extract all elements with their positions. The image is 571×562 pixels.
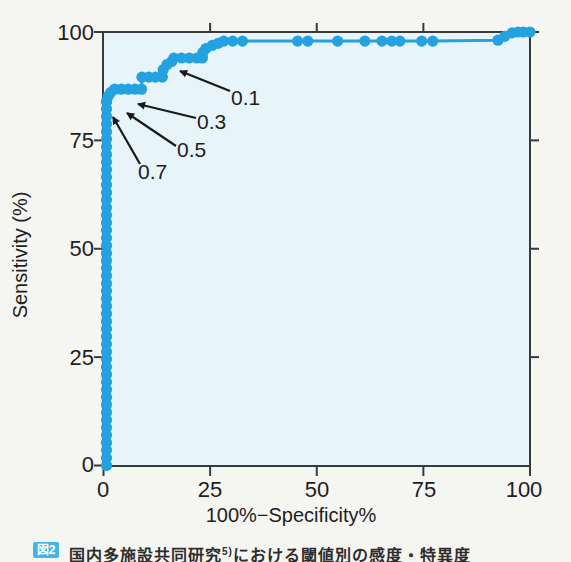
figure-number-badge: 図2	[33, 542, 59, 558]
x-tick-25: 25	[198, 477, 222, 502]
y-tick-0: 0	[82, 452, 94, 477]
y-axis-title: Sensitivity (%)	[9, 192, 31, 319]
roc-data-point	[416, 36, 427, 47]
threshold-label: 0.7	[138, 160, 167, 183]
roc-data-point	[237, 36, 248, 47]
roc-data-point	[394, 36, 405, 47]
y-tick-75: 75	[70, 128, 94, 153]
y-tick-25: 25	[70, 345, 94, 370]
roc-data-point	[427, 36, 438, 47]
roc-data-point	[332, 36, 343, 47]
threshold-label: 0.3	[197, 110, 226, 133]
y-tick-100: 100	[57, 20, 94, 45]
roc-data-point	[136, 84, 147, 95]
roc-data-point	[376, 36, 387, 47]
x-tick-0: 0	[97, 477, 109, 502]
x-tick-50: 50	[305, 477, 329, 502]
roc-data-point	[302, 36, 313, 47]
roc-data-point	[227, 36, 238, 47]
roc-data-point	[292, 36, 303, 47]
caption-reference-mark: 5)	[222, 546, 233, 557]
plot-area	[103, 32, 530, 466]
x-tick-100: 100	[506, 477, 543, 502]
roc-data-point	[524, 26, 535, 37]
figure-caption: 図2 国内多施設共同研究5)における閾値別の感度・特異度	[0, 542, 571, 562]
threshold-label: 0.1	[231, 86, 260, 109]
threshold-label: 0.5	[177, 138, 206, 161]
x-tick-75: 75	[412, 477, 436, 502]
roc-data-point	[359, 36, 370, 47]
caption-text: 国内多施設共同研究5)における閾値別の感度・特異度	[69, 542, 471, 562]
y-tick-50: 50	[70, 236, 94, 261]
x-axis-title: 100%−Specificity%	[206, 504, 377, 526]
